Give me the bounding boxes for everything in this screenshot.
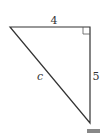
right-triangle bbox=[10, 27, 90, 123]
side-label-top: 4 bbox=[51, 14, 58, 27]
triangle-diagram: 4 5 c bbox=[0, 0, 104, 138]
right-angle-marker bbox=[83, 27, 90, 34]
gray-bar-marker bbox=[87, 129, 100, 133]
side-label-hypotenuse: c bbox=[37, 70, 43, 83]
side-label-right: 5 bbox=[93, 70, 100, 83]
